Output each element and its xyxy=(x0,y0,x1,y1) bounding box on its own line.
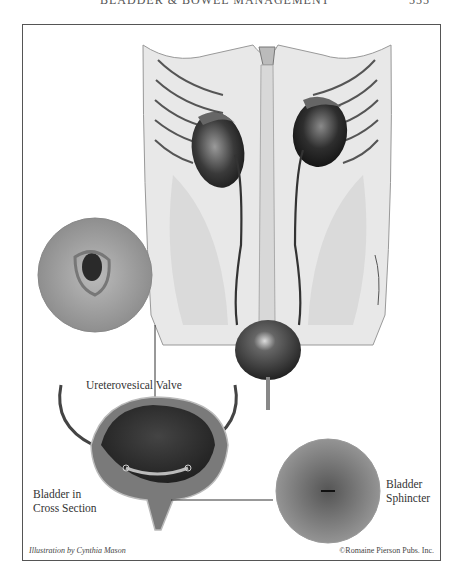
label-ureterovesical-valve: Ureterovesical Valve xyxy=(86,378,182,392)
running-head-title: BLADDER & BOWEL MANAGEMENT xyxy=(100,0,330,8)
illustrator-credit: Illustration by Cynthia Mason xyxy=(29,546,126,555)
torso-illustration xyxy=(143,45,391,410)
running-head: BLADDER & BOWEL MANAGEMENT 555 xyxy=(100,0,430,5)
page-number: 555 xyxy=(409,0,430,8)
label-bladder-sphincter-line1: Bladder xyxy=(386,477,430,491)
label-bladder-sphincter-line2: Sphincter xyxy=(386,491,430,505)
label-bladder-cross-section-line1: Bladder in xyxy=(33,487,97,501)
label-bladder-sphincter: Bladder Sphincter xyxy=(386,477,430,505)
figure-frame: Ureterovesical Valve Bladder in Cross Se… xyxy=(22,24,441,561)
label-bladder-cross-section: Bladder in Cross Section xyxy=(33,487,97,515)
bladder-sphincter-closeup xyxy=(276,439,380,543)
copyright-credit: ©Romaine Pierson Pubs. Inc. xyxy=(339,546,434,555)
label-bladder-cross-section-line2: Cross Section xyxy=(33,501,97,515)
anatomy-illustration xyxy=(23,25,442,562)
